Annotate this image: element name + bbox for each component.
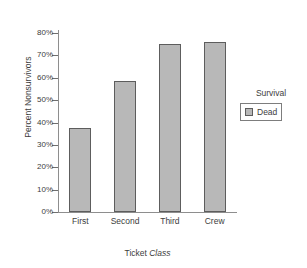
y-axis-tick-label: 50% [13, 96, 53, 104]
y-axis-tick-label: 20% [13, 163, 53, 171]
y-axis-tick-label: 80% [13, 29, 53, 37]
y-axis-tick-label: 0% [13, 208, 53, 216]
y-axis-tick-label: 70% [13, 51, 53, 59]
legend-title: Survival [240, 88, 302, 98]
bar-crew [204, 42, 226, 212]
x-axis-line [58, 212, 237, 213]
legend-box: Dead [240, 103, 282, 121]
bar-first [69, 128, 91, 212]
x-axis-title-emphasis: Class [149, 248, 170, 258]
y-axis-title: Percent Nonsurvivors [23, 22, 33, 172]
y-axis-line [58, 30, 59, 213]
y-axis-tick-label: 40% [13, 119, 53, 127]
bar-chart: 0%10%20%30%40%50%60%70%80% FirstSecondTh… [0, 0, 307, 268]
legend-item-label: Dead [257, 107, 277, 117]
y-axis-tick-label: 30% [13, 141, 53, 149]
x-axis-title-prefix: Ticket [125, 248, 150, 258]
legend-swatch-icon [245, 108, 253, 116]
x-axis-title: Ticket Class [58, 248, 237, 258]
y-axis-tick-label: 10% [13, 186, 53, 194]
x-axis-label-crew: Crew [185, 216, 245, 226]
bar-third [159, 44, 181, 212]
y-axis-tick-label: 60% [13, 74, 53, 82]
legend: Survival Dead [240, 88, 302, 121]
bar-second [114, 81, 136, 212]
legend-item-dead[interactable]: Dead [245, 107, 277, 117]
